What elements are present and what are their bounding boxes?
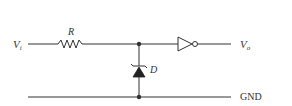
resistor-symbol (58, 40, 84, 48)
circuit-diagram: Vi R Vo D GND (0, 0, 292, 106)
zener-diode (131, 64, 147, 77)
inverter-triangle-icon (178, 37, 192, 51)
zener-triangle-icon (133, 67, 145, 77)
output-label: Vo (240, 38, 251, 52)
resistor-label: R (67, 26, 74, 37)
input-label: Vi (13, 38, 22, 52)
zener-label: D (149, 64, 158, 75)
ground-label: GND (240, 91, 262, 102)
inverter-bubble-icon (193, 42, 198, 47)
inverter-gate (178, 37, 198, 51)
